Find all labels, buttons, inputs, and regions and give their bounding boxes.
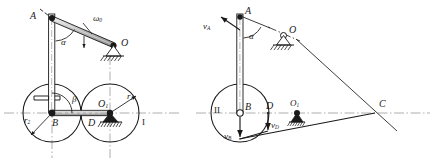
left-label-alpha: α bbox=[61, 38, 66, 47]
left-label-omega0: ω0 bbox=[93, 14, 102, 23]
right-pivot-A bbox=[237, 14, 243, 20]
right-label-O: O bbox=[289, 25, 296, 35]
right-label-B: B bbox=[245, 102, 251, 112]
right-pivot-B bbox=[237, 110, 243, 116]
right-point-D bbox=[267, 112, 269, 114]
left-label-beta: β bbox=[72, 95, 76, 104]
left-label-O1: O1 bbox=[98, 99, 108, 109]
left-horizontal-link-BD bbox=[52, 110, 110, 115]
right-support-O1 bbox=[288, 110, 306, 126]
left-tick-A bbox=[40, 9, 49, 16]
right-label-wheel-II: II bbox=[214, 106, 220, 115]
right-label-vD: vD bbox=[271, 121, 279, 130]
left-label-A: A bbox=[30, 11, 36, 21]
right-line-AO-extended bbox=[243, 17, 270, 28]
left-pivot-A bbox=[49, 15, 55, 21]
right-label-alpha: α bbox=[249, 32, 254, 41]
right-velocity-distribution-line bbox=[239, 113, 375, 139]
figure-root: A α ω0 O β B D O1 r1 r2 I vA A α O II B … bbox=[0, 0, 434, 163]
right-label-A: A bbox=[245, 6, 251, 16]
left-label-wheel-I: I bbox=[142, 118, 145, 127]
right-label-vB: vB bbox=[224, 132, 231, 141]
left-label-B: B bbox=[52, 118, 58, 128]
left-label-D: D bbox=[88, 118, 95, 128]
right-line-OC-extended bbox=[296, 39, 397, 131]
right-label-vA: vA bbox=[203, 22, 210, 31]
left-label-O: O bbox=[121, 38, 128, 48]
left-label-r2: r2 bbox=[24, 116, 30, 125]
right-support-O bbox=[271, 33, 295, 51]
left-panel-group bbox=[4, 9, 180, 158]
left-label-r1: r1 bbox=[127, 92, 133, 101]
right-label-D: D bbox=[266, 101, 273, 111]
left-vertical-rod-AB bbox=[49, 14, 55, 113]
left-collar-bracket bbox=[34, 96, 60, 100]
right-panel-group bbox=[196, 14, 430, 142]
left-radius-r2-arrow bbox=[31, 113, 52, 135]
right-label-C: C bbox=[379, 99, 386, 109]
figure-canvas bbox=[0, 0, 434, 163]
right-label-O1: O1 bbox=[290, 99, 299, 108]
